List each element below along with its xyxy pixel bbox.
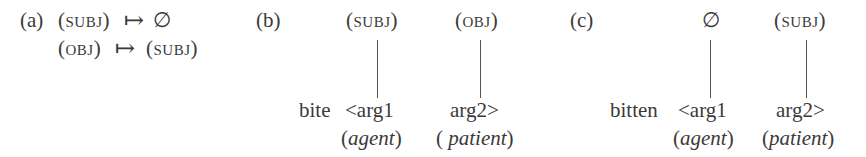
rule1-lhs: (subj) [58, 10, 110, 31]
role-patient: (patient) [762, 128, 834, 149]
arg2: arg2> [776, 100, 825, 121]
predicate: bite [299, 100, 331, 121]
link-line-arg2 [480, 40, 481, 98]
panel-b-label: (b) [256, 10, 281, 31]
role-agent: (agent) [341, 128, 402, 149]
rule2-lhs: (obj) [58, 38, 101, 59]
arg2: arg2> [450, 100, 499, 121]
link-line-arg1 [710, 40, 711, 98]
link-line-arg2 [806, 40, 807, 98]
rule1-rhs-empty-set: ∅ [153, 10, 171, 31]
rule2-rhs: (subj) [146, 38, 198, 59]
function-empty-set: ∅ [702, 10, 720, 31]
function-subj: (subj) [346, 10, 398, 31]
maps-to-icon: ↦ [124, 8, 144, 32]
arg1: <arg1 [345, 100, 394, 121]
role-agent: (agent) [673, 128, 734, 149]
maps-to-icon: ↦ [115, 36, 135, 60]
panel-c-label: (c) [570, 10, 593, 31]
function-subj: (subj) [774, 10, 826, 31]
function-obj: (obj) [455, 10, 498, 31]
predicate: bitten [610, 100, 658, 121]
role-patient: ( patient) [436, 128, 514, 149]
panel-a-label: (a) [20, 10, 43, 31]
arg1: <arg1 [678, 100, 727, 121]
link-line-arg1 [377, 40, 378, 98]
